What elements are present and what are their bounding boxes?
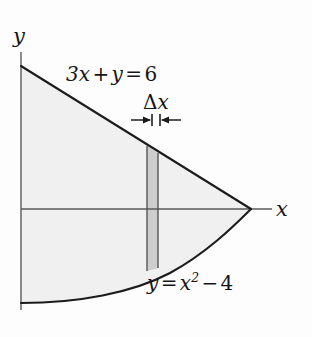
parabola-equation-minus: − xyxy=(199,271,221,295)
delta-x-left-arrow-head xyxy=(143,116,151,123)
line-equation-value: 6 xyxy=(144,62,157,86)
x-axis-label: x xyxy=(276,199,288,220)
shaded-region xyxy=(21,66,250,303)
y-axis-label: y xyxy=(13,26,25,47)
parabola-equation-exponent: 2 xyxy=(191,270,199,285)
line-equation-term-3x: 3x xyxy=(66,62,90,86)
line-equation-term-y: y xyxy=(112,62,123,86)
line-equation-label: 3x+y=6 xyxy=(66,64,157,84)
line-equation-plus: + xyxy=(90,62,112,86)
parabola-equation-base: x xyxy=(180,271,191,295)
delta-x-right-arrow-head xyxy=(161,116,169,123)
parabola-equation-lhs: y xyxy=(147,271,158,295)
parabola-equation-value: 4 xyxy=(221,271,234,295)
delta-x-label: Δx xyxy=(143,92,169,112)
parabola-equation-label: y=x2−4 xyxy=(147,272,233,293)
delta-x-variable: x xyxy=(157,90,168,114)
parabola-equation-equals: = xyxy=(158,271,180,295)
delta-symbol: Δ xyxy=(143,90,157,114)
line-equation-equals: = xyxy=(123,62,145,86)
